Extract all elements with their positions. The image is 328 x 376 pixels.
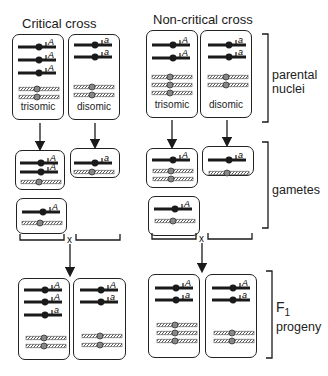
- svg-text:a: a: [104, 153, 109, 163]
- svg-text:A: A: [181, 35, 188, 45]
- svg-text:a: a: [54, 305, 59, 315]
- cross-bracket: [208, 233, 252, 239]
- chromosome-unmarked: [82, 333, 122, 339]
- chromosome-unmarked: [214, 330, 254, 336]
- chromosome-unmarked: [157, 330, 197, 336]
- chromosome-unmarked: [26, 343, 66, 349]
- chromosome-a: a: [74, 47, 112, 60]
- chromosome-unmarked: [74, 92, 114, 98]
- cross-bracket: [152, 233, 196, 239]
- chromosome-A: A: [152, 35, 190, 48]
- chromosome-a: a: [212, 290, 250, 303]
- chromosome-unmarked: [155, 218, 195, 224]
- chromosome-A: A: [24, 292, 62, 305]
- chromosome-a: a: [24, 305, 62, 318]
- chromosome-a: a: [155, 290, 193, 303]
- chromosome-a: a: [74, 153, 112, 166]
- svg-text:A: A: [47, 37, 54, 47]
- svg-text:A: A: [109, 280, 116, 290]
- chromosome-unmarked: [157, 338, 197, 344]
- chromosome-A: A: [18, 50, 56, 63]
- chromosome-A: A: [152, 150, 190, 163]
- svg-text:a: a: [104, 35, 109, 45]
- chromosome-unmarked: [21, 179, 61, 185]
- chromosome-A: A: [154, 199, 192, 212]
- cross-bracket: [76, 234, 120, 240]
- chromosome-unmarked: [152, 90, 192, 96]
- chromosome-unmarked: [153, 176, 193, 182]
- chromosome-A: A: [152, 48, 190, 61]
- svg-text:A: A: [53, 280, 60, 290]
- diagram-line-art: A A A a a A A a a A A a A A a A A: [0, 0, 328, 376]
- svg-text:a: a: [238, 35, 243, 45]
- svg-text:A: A: [49, 162, 56, 172]
- svg-text:a: a: [104, 47, 109, 57]
- chromosome-A: A: [22, 202, 60, 215]
- chromosome-a: a: [80, 292, 118, 305]
- chromosome-unmarked: [208, 82, 248, 88]
- chromosome-unmarked: [22, 220, 62, 226]
- cross-bracket: [20, 234, 64, 240]
- chromosome-unmarked: [74, 84, 114, 90]
- svg-text:A: A: [181, 48, 188, 58]
- chromosome-unmarked: [208, 74, 248, 80]
- chromosome-unmarked: [153, 168, 193, 174]
- f1-bracket: [266, 271, 272, 358]
- svg-text:A: A: [47, 50, 54, 60]
- chromosome-unmarked: [152, 82, 192, 88]
- chromosome-unmarked: [209, 170, 249, 176]
- svg-text:A: A: [53, 292, 60, 302]
- chromosome-a: a: [208, 150, 246, 163]
- svg-text:a: a: [185, 290, 190, 300]
- chromosome-unmarked: [82, 342, 122, 348]
- svg-text:a: a: [110, 292, 115, 302]
- chromosome-A: A: [18, 37, 56, 50]
- chromosome-unmarked: [26, 335, 66, 341]
- svg-text:A: A: [51, 202, 58, 212]
- svg-text:a: a: [238, 47, 243, 57]
- svg-text:A: A: [241, 278, 248, 288]
- chromosome-unmarked: [214, 338, 254, 344]
- chromosome-unmarked: [19, 94, 59, 100]
- svg-text:A: A: [184, 278, 191, 288]
- svg-text:A: A: [183, 199, 190, 209]
- chromosome-A: A: [18, 63, 56, 76]
- chromosome-unmarked: [19, 86, 59, 92]
- svg-text:a: a: [242, 290, 247, 300]
- svg-text:a: a: [238, 150, 243, 160]
- chromosome-unmarked: [152, 74, 192, 80]
- svg-text:A: A: [47, 63, 54, 73]
- gametes-bracket: [262, 142, 268, 228]
- chromosome-unmarked: [157, 322, 197, 328]
- chromosome-a: a: [208, 47, 246, 60]
- parental-bracket: [262, 34, 268, 122]
- svg-text:A: A: [181, 150, 188, 160]
- chromosome-unmarked: [74, 169, 114, 175]
